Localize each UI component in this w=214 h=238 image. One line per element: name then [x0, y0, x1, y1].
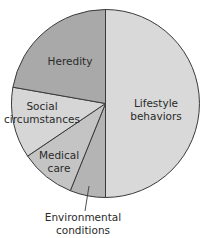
label-lifestyle-behaviors: Lifestyle behaviors	[130, 97, 182, 123]
label-social-circumstances: Social circumstances	[4, 100, 80, 126]
label-medical-care: Medical care	[39, 149, 79, 175]
label-environmental-conditions: Environmental conditions	[45, 211, 121, 237]
label-heredity: Heredity	[48, 55, 93, 68]
